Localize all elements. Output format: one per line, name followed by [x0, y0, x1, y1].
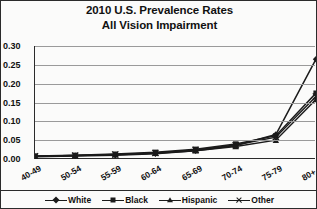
series-line	[35, 99, 316, 156]
chart-title-line-2: All Vision Impairment	[1, 18, 317, 33]
chart-title: 2010 U.S. Prevalence Rates All Vision Im…	[1, 3, 317, 33]
x-axis-tick-label: 70-74	[220, 163, 244, 183]
chart-title-line-1: 2010 U.S. Prevalence Rates	[1, 3, 317, 18]
legend-label: White	[68, 195, 91, 205]
x-axis-tick-label: 50-54	[59, 163, 83, 183]
series-hispanic	[35, 96, 316, 159]
x-axis-tick-label: 65-69	[180, 163, 204, 183]
y-axis-tick-label: 0.30	[3, 41, 33, 51]
x-axis: 40-4950-5455-5960-6465-6970-7475-7980+	[34, 159, 315, 189]
chart-legend: WhiteBlackHispanicOther	[1, 190, 317, 209]
y-axis-tick-label: 0.15	[3, 98, 33, 108]
legend-item-hispanic[interactable]: Hispanic	[159, 195, 217, 205]
legend-label: Other	[251, 195, 274, 205]
legend-label: Black	[125, 195, 148, 205]
legend-item-other[interactable]: Other	[228, 195, 274, 205]
y-axis-tick-label: 0.25	[3, 60, 33, 70]
legend-marker-cross-icon	[228, 196, 250, 205]
gridline	[35, 121, 315, 122]
series-line	[35, 96, 316, 156]
legend-item-white[interactable]: White	[45, 195, 91, 205]
gridline	[35, 140, 315, 141]
x-axis-tick-label: 55-59	[99, 163, 123, 183]
x-axis-tick-label: 40-49	[19, 163, 43, 183]
y-axis-tick-label: 0.20	[3, 79, 33, 89]
plot-area	[35, 46, 315, 158]
legend-marker-diamond-icon	[45, 196, 67, 205]
legend-item-black[interactable]: Black	[102, 195, 148, 205]
x-axis-tick-label: 75-79	[260, 163, 284, 183]
legend-label: Hispanic	[182, 195, 217, 205]
y-axis-tick-label: 0.05	[3, 135, 33, 145]
x-axis-tick-label: 60-64	[139, 163, 163, 183]
series-white	[35, 56, 316, 159]
series-black	[35, 90, 316, 158]
gridline	[35, 65, 315, 66]
plot-frame	[34, 46, 315, 159]
chart-container: 2010 U.S. Prevalence Rates All Vision Im…	[0, 0, 317, 209]
x-axis-tick-label: 80+	[300, 167, 317, 183]
gridline	[35, 46, 315, 47]
legend-marker-triangle-icon	[159, 196, 181, 205]
legend-marker-square-icon	[102, 196, 124, 205]
y-axis-tick-label: 0.10	[3, 116, 33, 126]
y-axis-tick-label: 0.00	[3, 154, 33, 164]
gridline	[35, 103, 315, 104]
gridline	[35, 84, 315, 85]
